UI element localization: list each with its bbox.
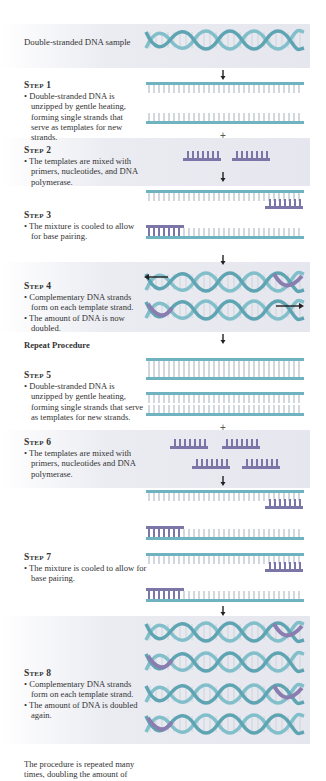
dna-double-helix <box>146 30 304 49</box>
svg-text:+: + <box>220 422 226 433</box>
svg-text:+: + <box>220 130 226 141</box>
pcr-diagram: + + <box>0 0 326 781</box>
